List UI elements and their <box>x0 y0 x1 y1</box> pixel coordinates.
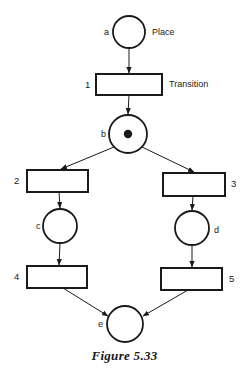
arc-5-to-e <box>143 290 188 316</box>
transition-2[interactable] <box>27 170 88 192</box>
transition-label-3: 3 <box>231 179 236 189</box>
nodes-layer <box>27 16 225 342</box>
place-a[interactable] <box>113 16 145 48</box>
arc-3-to-d <box>192 196 193 210</box>
place-annotation: Place <box>152 28 175 37</box>
transition-label-1: 1 <box>85 80 90 90</box>
arc-4-to-e <box>63 288 108 316</box>
arc-2-to-c <box>59 192 60 208</box>
place-label-e: e <box>98 320 103 329</box>
place-label-c: c <box>36 222 41 231</box>
transition-4[interactable] <box>27 266 87 288</box>
transition-label-5: 5 <box>229 274 234 284</box>
place-e[interactable] <box>107 306 143 342</box>
transition-annotation: Transition <box>169 80 208 89</box>
place-label-a: a <box>104 28 109 37</box>
arc-b-to-2 <box>61 147 114 169</box>
token-b <box>124 130 132 138</box>
transition-3[interactable] <box>163 173 225 196</box>
place-c[interactable] <box>43 209 77 243</box>
place-label-d: d <box>214 226 219 235</box>
transition-label-4: 4 <box>14 272 19 282</box>
transition-1[interactable] <box>96 74 162 95</box>
arc-b-to-3 <box>142 147 194 172</box>
figure-caption: Figure 5.33 <box>0 348 249 364</box>
arc-c-to-4 <box>59 243 60 265</box>
place-d[interactable] <box>175 211 209 245</box>
arc-1-to-b <box>128 95 129 114</box>
petri-net-canvas <box>0 0 249 371</box>
transition-5[interactable] <box>161 268 222 290</box>
petri-net-figure: abcde12345PlaceTransition Figure 5.33 <box>0 0 249 371</box>
place-label-b: b <box>101 130 106 139</box>
transition-label-2: 2 <box>14 176 19 186</box>
